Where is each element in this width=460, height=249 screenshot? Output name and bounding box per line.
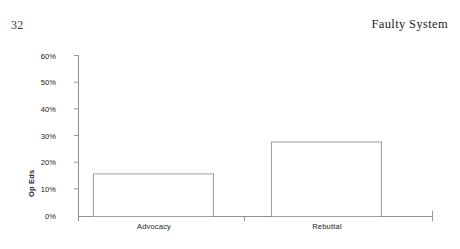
page-number: 32 — [11, 18, 24, 33]
x-tick-label-rebuttal: Rebuttal — [286, 222, 368, 231]
chart-plot-area: Op Eds 60% 50% 40% 30% 20% 10% 0% — [0, 40, 460, 249]
page-header: 32 Faulty System — [0, 0, 460, 40]
running-header-title: Faulty System — [372, 17, 448, 32]
bar-advocacy[interactable] — [94, 174, 214, 217]
chart-svg — [0, 40, 460, 249]
bar-chart-figure: Op Eds 60% 50% 40% 30% 20% 10% 0% — [0, 40, 460, 249]
bar-rebuttal[interactable] — [272, 142, 382, 217]
x-tick-label-advocacy: Advocacy — [113, 222, 195, 231]
